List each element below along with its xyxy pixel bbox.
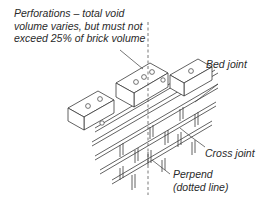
brickwork-diagram: Perforations – total void volume varies,… <box>0 0 271 202</box>
leader-perforations <box>120 50 143 69</box>
label-cross-joint: Cross joint <box>205 147 255 160</box>
brick-lower-left <box>68 91 114 130</box>
label-bed-joint: Bed joint <box>206 58 247 71</box>
label-perforations: Perforations – total void volume varies,… <box>14 7 145 45</box>
label-perpend: Perpend (dotted line) <box>173 168 228 193</box>
exposed-perforation <box>100 121 104 125</box>
leader-perpend <box>152 160 170 174</box>
brick-top-perforated <box>116 63 168 107</box>
